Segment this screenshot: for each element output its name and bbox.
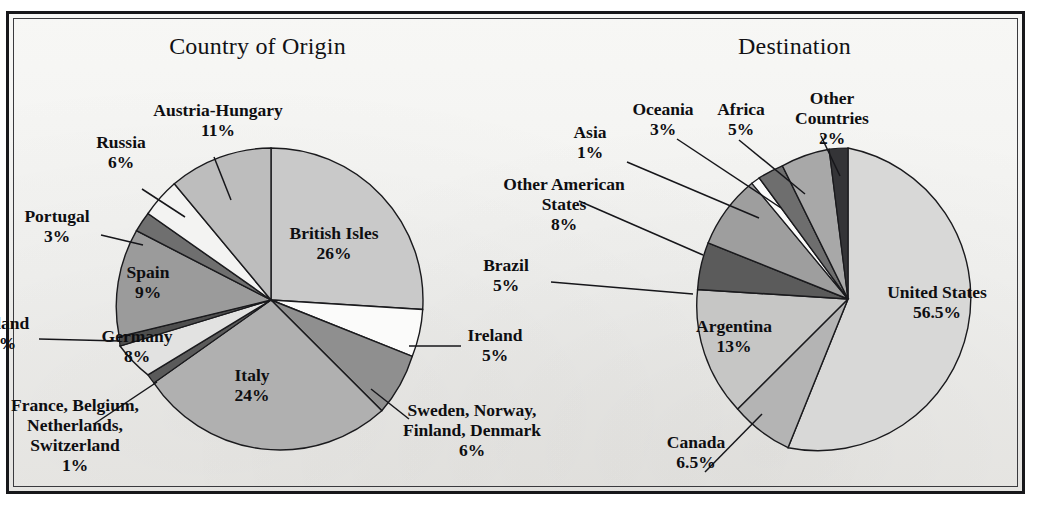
label-russia-text: Russia — [96, 132, 146, 152]
label-spain: Spain 9% — [102, 262, 194, 302]
label-canada: Canada 6.5% — [643, 432, 749, 472]
label-other-countries-line2: Countries — [777, 108, 887, 128]
label-asia-value: 1% — [551, 142, 629, 162]
label-other-american-states-line1: Other American — [503, 174, 625, 194]
label-spain-value: 9% — [102, 282, 194, 302]
label-other-countries-value: 2% — [777, 128, 887, 148]
label-british-isles-text: British Isles — [290, 223, 379, 243]
label-brazil-text: Brazil — [483, 255, 529, 275]
label-portugal-value: 3% — [11, 226, 103, 246]
label-italy: Italy 24% — [204, 365, 300, 405]
leader-brazil — [551, 282, 693, 294]
label-portugal: Portugal 3% — [11, 206, 103, 246]
figure-frame: Country of Origin — [6, 11, 1025, 494]
label-africa-value: 5% — [699, 119, 783, 139]
label-oceania-value: 3% — [613, 119, 713, 139]
pie-destination — [509, 14, 1028, 497]
label-italy-value: 24% — [204, 385, 300, 405]
label-asia-text: Asia — [573, 122, 606, 142]
label-oceania-text: Oceania — [632, 99, 693, 119]
label-france-group-value: 1% — [0, 455, 170, 475]
label-italy-text: Italy — [235, 365, 270, 385]
label-poland: Poland 1% — [0, 313, 41, 353]
figure-page: Country of Origin — [0, 0, 1039, 521]
label-oceania: Oceania 3% — [613, 99, 713, 139]
label-germany-text: Germany — [102, 326, 173, 346]
label-british-isles: British Isles 26% — [267, 223, 401, 263]
label-germany: Germany 8% — [82, 326, 192, 366]
label-germany-value: 8% — [82, 346, 192, 366]
label-brazil: Brazil 5% — [465, 255, 547, 295]
label-france-group-line1: France, Belgium, — [11, 395, 139, 415]
label-other-american-states: Other American States 8% — [477, 174, 651, 234]
label-other-countries: Other Countries 2% — [777, 88, 887, 148]
label-france-group-line2: Netherlands, — [0, 415, 170, 435]
label-portugal-text: Portugal — [24, 206, 89, 226]
label-other-american-states-value: 8% — [477, 214, 651, 234]
label-united-states: United States 56.5% — [864, 282, 1010, 322]
label-france-belgium-netherlands-switzerland: France, Belgium, Netherlands, Switzerlan… — [0, 395, 170, 475]
label-poland-value: 1% — [0, 333, 41, 353]
label-other-countries-line1: Other — [810, 88, 855, 108]
label-austria-hungary-text: Austria-Hungary — [153, 100, 282, 120]
label-canada-value: 6.5% — [643, 452, 749, 472]
label-argentina-text: Argentina — [696, 316, 772, 336]
chart-country-of-origin: Country of Origin — [9, 14, 528, 497]
label-brazil-value: 5% — [465, 275, 547, 295]
label-british-isles-value: 26% — [267, 243, 401, 263]
label-argentina: Argentina 13% — [669, 316, 799, 356]
label-russia: Russia 6% — [75, 132, 167, 172]
label-spain-text: Spain — [127, 262, 170, 282]
label-other-american-states-line2: States — [477, 194, 651, 214]
label-africa-text: Africa — [717, 99, 765, 119]
label-united-states-value: 56.5% — [864, 302, 1010, 322]
label-france-group-line3: Switzerland — [0, 435, 170, 455]
label-united-states-text: United States — [887, 282, 987, 302]
label-poland-text: Poland — [0, 313, 29, 333]
label-russia-value: 6% — [75, 152, 167, 172]
label-canada-text: Canada — [667, 432, 725, 452]
label-africa: Africa 5% — [699, 99, 783, 139]
label-argentina-value: 13% — [669, 336, 799, 356]
chart-destination: Destination — [509, 14, 1028, 497]
